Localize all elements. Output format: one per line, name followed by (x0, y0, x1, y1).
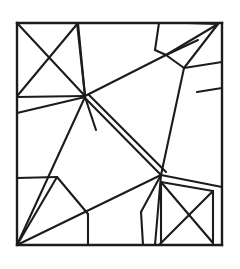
line-drawing-canvas (0, 0, 240, 269)
segment-tl-box-bottom (17, 96, 85, 97)
line-drawing-figure (0, 0, 240, 269)
segment-left-mid-horizontal (17, 177, 57, 178)
segment-corner-tr-ray-3 (188, 23, 218, 24)
